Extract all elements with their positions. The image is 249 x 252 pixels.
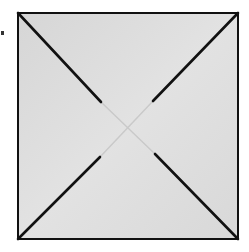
speck-mark [1, 31, 4, 35]
pinwheel-paper-figure [0, 0, 249, 252]
